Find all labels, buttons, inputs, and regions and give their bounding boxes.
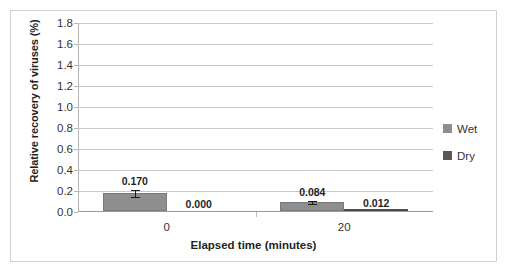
y-axis-tick-label: 1.0: [39, 101, 73, 113]
error-bar-wet-0: [135, 190, 136, 197]
error-bar-cap-top: [131, 190, 140, 191]
y-axis-tick-label: 0.6: [39, 143, 73, 155]
bar-dry-20[interactable]: [344, 209, 408, 211]
y-axis-tick: [74, 65, 78, 66]
y-axis-tick-label: 0.4: [39, 164, 73, 176]
x-axis-title: Elapsed time (minutes): [11, 239, 496, 251]
y-axis-tick-label: 1.6: [39, 38, 73, 50]
legend-label: Dry: [457, 150, 475, 162]
y-axis-line: [78, 23, 79, 212]
y-axis-tick: [74, 44, 78, 45]
y-axis-tick: [74, 212, 78, 213]
legend-item-dry[interactable]: Dry: [443, 142, 497, 169]
y-axis-tick: [74, 128, 78, 129]
y-axis-tick: [74, 170, 78, 171]
legend-swatch-icon: [443, 151, 452, 160]
y-axis-tick: [74, 23, 78, 24]
gridline: [78, 128, 433, 129]
gridline: [78, 149, 433, 150]
gridline: [78, 23, 433, 24]
x-axis-category-tick: [256, 212, 257, 217]
legend-swatch-icon: [443, 124, 452, 133]
chart-figure: Relative recovery of viruses (%) 0.00.20…: [10, 10, 497, 262]
gridline: [78, 65, 433, 66]
y-axis-tick: [74, 191, 78, 192]
gridline: [78, 44, 433, 45]
data-label-wet-0: 0.170: [122, 175, 148, 187]
plot-area: 0.1700.00000.0840.01220: [78, 23, 433, 212]
y-axis-tick-label: 0.8: [39, 122, 73, 134]
gridline: [78, 107, 433, 108]
error-bar-cap-bottom: [308, 204, 317, 205]
x-axis-category-label: 20: [338, 221, 351, 233]
y-axis-tick: [74, 86, 78, 87]
y-axis-tick-label: 1.2: [39, 80, 73, 92]
error-bar-cap-bottom: [131, 197, 140, 198]
data-label-dry-20: 0.012: [363, 197, 389, 209]
y-axis-tick: [74, 149, 78, 150]
y-axis-tick: [74, 107, 78, 108]
error-bar-wet-20: [312, 201, 313, 206]
chart-legend: WetDry: [443, 115, 497, 169]
y-axis-tick-label: 0.0: [39, 206, 73, 218]
gridline: [78, 170, 433, 171]
y-axis-tick-label: 1.8: [39, 17, 73, 29]
data-label-dry-0: 0.000: [186, 198, 212, 210]
y-axis-tick-label: 1.4: [39, 59, 73, 71]
y-axis-tick-label: 0.2: [39, 185, 73, 197]
data-label-wet-20: 0.084: [299, 186, 325, 198]
y-axis-tick-labels: 0.00.20.40.60.81.01.21.41.61.8: [39, 17, 73, 218]
x-axis-category-label: 0: [164, 221, 170, 233]
gridline: [78, 86, 433, 87]
error-bar-cap-top: [308, 201, 317, 202]
legend-item-wet[interactable]: Wet: [443, 115, 497, 142]
legend-label: Wet: [457, 123, 477, 135]
